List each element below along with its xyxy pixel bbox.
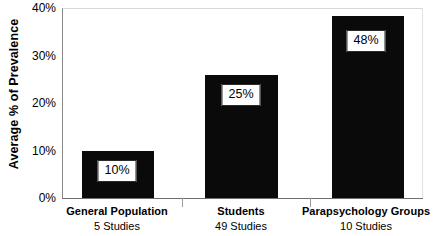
x-category-name-students: Students bbox=[215, 205, 267, 218]
x-category-students: Students 49 Studies bbox=[215, 205, 267, 233]
bar-value-label-parapsychology-groups: 48% bbox=[346, 30, 385, 52]
x-category-parapsychology-groups: Parapsychology Groups 10 Studies bbox=[302, 205, 430, 233]
bar-value-label-students: 25% bbox=[221, 84, 260, 106]
x-category-name-general-population: General Population bbox=[66, 205, 168, 218]
bar-value-label-general-population: 10% bbox=[97, 160, 136, 182]
x-category-sublabel-parapsychology-groups: 10 Studies bbox=[302, 220, 430, 233]
x-category-general-population: General Population 5 Studies bbox=[66, 205, 168, 233]
y-tick-label-30: 30% bbox=[0, 50, 56, 62]
y-tick-label-20: 20% bbox=[0, 97, 56, 109]
x-category-sublabel-students: 49 Studies bbox=[215, 220, 267, 233]
y-tick-label-40: 40% bbox=[0, 2, 56, 14]
y-tick-label-0: 0% bbox=[0, 192, 56, 204]
x-axis-line bbox=[62, 198, 423, 199]
y-tick-label-10: 10% bbox=[0, 145, 56, 157]
bar-chart-figure: Average % of Prevalence 40% 30% 20% 10% … bbox=[0, 0, 434, 236]
x-category-sublabel-general-population: 5 Studies bbox=[66, 220, 168, 233]
x-category-name-parapsychology-groups: Parapsychology Groups bbox=[302, 205, 430, 218]
x-tick-divider-1 bbox=[182, 198, 183, 207]
